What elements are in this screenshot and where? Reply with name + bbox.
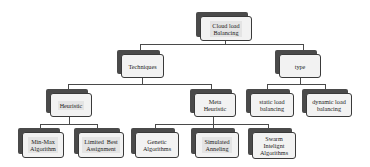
node-meta-heuristic: MetaHeuristic: [190, 89, 236, 117]
node-min-max-algorithm: Min-MaxAlgorithm: [18, 128, 64, 158]
node-genetic-algorithms: GeneticAlgorithms: [131, 128, 179, 158]
node-techniques: Techniques: [117, 50, 164, 78]
connector-meta-bar: [155, 124, 269, 125]
node-simulated-anneling: SimulatedAnneling: [191, 128, 239, 158]
connector-type-stem: [300, 77, 301, 84]
connector-techniques-stem: [142, 77, 143, 84]
node-limited-best-assignment: Limited BestAssignment: [74, 128, 124, 158]
node-label: Balancing: [212, 29, 239, 36]
node-label: Heuristic: [204, 105, 227, 112]
node-label: balancing: [259, 105, 284, 112]
node-label: balancing: [312, 105, 346, 112]
connector-techniques-bar: [68, 84, 212, 85]
connector-type-bar: [267, 84, 326, 85]
node-label: Algorithms: [143, 145, 171, 152]
node-type: type: [275, 50, 321, 78]
node-label: static load: [259, 98, 284, 105]
node-label: type: [295, 63, 306, 70]
node-label: Techniques: [128, 63, 156, 70]
node-label: Anneling: [204, 145, 229, 152]
node-label: dynamic load: [312, 98, 346, 105]
node-dynamic-load-balancing: dynamic loadbalancing: [302, 89, 352, 117]
node-label: Min-Max: [30, 138, 56, 145]
node-label: Algorithm: [30, 145, 56, 152]
node-label: Limited Best: [84, 138, 118, 145]
node-heuristic: Heuristic: [46, 89, 92, 117]
node-label: Intelignt: [260, 142, 288, 149]
node-label: Algorithms: [260, 149, 288, 156]
connector-root-bar: [140, 44, 304, 45]
node-static-load-balancing: static loadbalancing: [246, 89, 294, 117]
connector-heuristic-bar: [40, 124, 98, 125]
node-label: Swarm: [260, 135, 288, 142]
node-label: Meta: [204, 98, 227, 105]
node-label: Assignment: [84, 145, 118, 152]
node-label: Heuristic: [60, 102, 83, 109]
node-label: Genetic: [143, 138, 171, 145]
node-label: Cloud load: [212, 22, 239, 29]
node-cloud-load-balancing: Cloud loadBalancing: [196, 12, 252, 41]
node-swarm-intelligent-algorithms: SwarmInteligntAlgorithms: [248, 128, 296, 159]
node-label: Simulated: [204, 138, 229, 145]
